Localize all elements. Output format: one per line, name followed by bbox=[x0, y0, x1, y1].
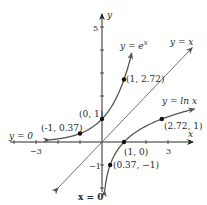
ln-label: y = ln x bbox=[161, 96, 197, 106]
exp-label: y = ex bbox=[119, 39, 148, 51]
asymptote-v-label: x = 0 bbox=[78, 192, 103, 202]
y-axis-label: y bbox=[106, 10, 113, 20]
identity-label: y = x bbox=[169, 37, 193, 47]
function-plot: x y −3 3 5 −1 y = ex y = x y = ln x y = … bbox=[0, 0, 207, 205]
point-label-037-neg1: (0.37, −1) bbox=[113, 160, 159, 170]
point-label-1-0: (1, 0) bbox=[124, 147, 148, 157]
tick-label-y-5: 5 bbox=[93, 24, 98, 33]
data-point bbox=[108, 163, 112, 167]
point-label-272-1: (2.72, 1) bbox=[164, 121, 203, 131]
point-label-0-1: (0, 1) bbox=[79, 109, 103, 119]
point-label-neg1-037: (-1, 0.37) bbox=[41, 123, 83, 133]
asymptote-h-label: y = 0 bbox=[8, 131, 33, 141]
chart-container: x y −3 3 5 −1 y = ex y = x y = ln x y = … bbox=[0, 0, 207, 205]
tick-label-x-3: 3 bbox=[166, 147, 171, 156]
tick-label-y-neg1: −1 bbox=[89, 162, 101, 171]
tick-label-x-neg3: −3 bbox=[30, 147, 42, 156]
point-label-1-272: (1, 2.72) bbox=[126, 74, 165, 84]
data-point bbox=[122, 140, 126, 144]
